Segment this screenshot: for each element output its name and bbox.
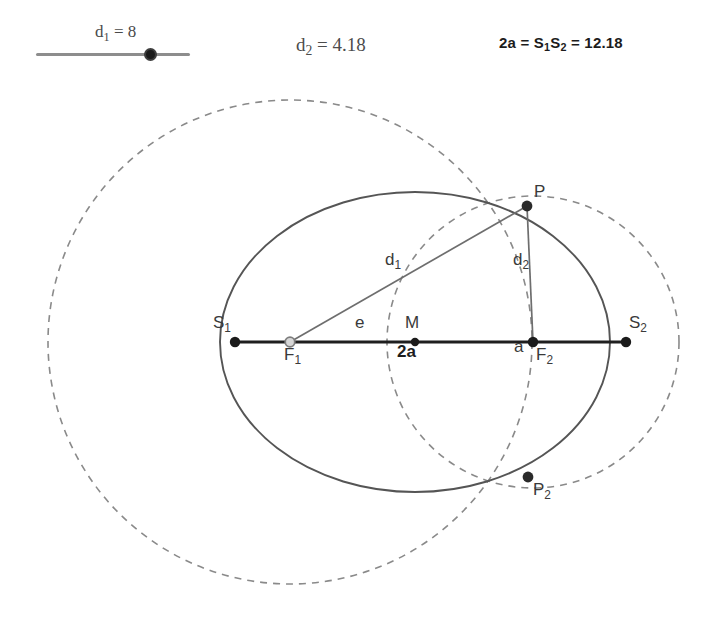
point-s2[interactable] [621, 337, 631, 347]
point-p2[interactable] [523, 472, 534, 483]
label-f1: F1 [284, 345, 301, 367]
point-p[interactable] [522, 201, 533, 212]
label-two-a: 2a [397, 342, 416, 362]
label-m: M [405, 313, 419, 333]
label-p2: P2 [533, 480, 551, 502]
label-d2: d2 [513, 250, 529, 272]
label-f2: F2 [536, 345, 553, 367]
label-d1: d1 [385, 250, 401, 272]
label-a: a [514, 337, 523, 357]
label-e: e [355, 313, 364, 333]
label-p: P [534, 182, 545, 202]
geogebra-ellipse-construction: d1 = 8 d2 = 4.18 2a = S1S2 = 12.18 [0, 0, 725, 632]
point-s1[interactable] [230, 337, 240, 347]
label-s2: S2 [629, 313, 647, 335]
segment-d2 [527, 206, 533, 342]
label-s1: S1 [213, 313, 231, 335]
